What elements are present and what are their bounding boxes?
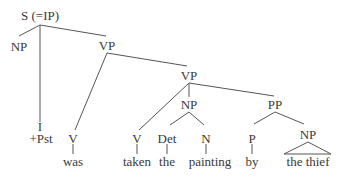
node-noun: N: [201, 132, 210, 146]
node-v-aux: V: [68, 132, 77, 146]
node-det: Det: [158, 132, 177, 146]
node-pp: PP: [268, 98, 282, 112]
word-was: was: [63, 155, 83, 169]
phrase-the-thief: the thief: [287, 155, 330, 169]
node-v-main: V: [132, 132, 141, 146]
node-vp-inner: VP: [181, 69, 198, 83]
node-s-ip: S (=IP): [21, 9, 59, 23]
node-vp-outer: VP: [99, 39, 116, 53]
node-subject-np: NP: [11, 40, 28, 54]
node-prep: P: [248, 132, 255, 146]
node-object-np: NP: [181, 98, 198, 112]
word-the: the: [159, 155, 175, 169]
infl-feature-past: +Pst: [29, 132, 52, 146]
word-by: by: [246, 155, 259, 169]
tree-branches: [0, 0, 347, 177]
word-taken: taken: [123, 155, 151, 169]
syntax-tree-diagram: S (=IP) NP I +Pst VP V was VP V taken NP…: [0, 0, 347, 177]
word-painting: painting: [189, 155, 232, 169]
node-pp-np: NP: [300, 128, 317, 142]
